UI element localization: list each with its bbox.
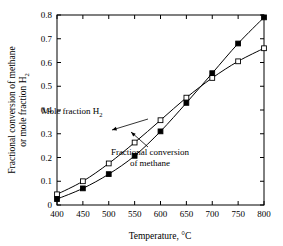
- marker-filled-square: [184, 100, 189, 105]
- annotation-mole-fraction-label-line1: Mole fraction H2: [41, 106, 102, 118]
- y-tick-label: 0.1: [41, 176, 52, 186]
- x-tick-label: 600: [154, 209, 168, 219]
- y-axis-title-subscript: 2: [23, 73, 30, 76]
- marker-filled-square: [106, 172, 111, 177]
- marker-open-square: [184, 95, 189, 100]
- marker-filled-square: [80, 186, 85, 191]
- x-tick-label: 800: [257, 209, 271, 219]
- marker-filled-square: [236, 41, 241, 46]
- y-tick-label: 0.6: [41, 58, 53, 68]
- chart-canvas: 400450500550600650700750800 00.10.20.30.…: [0, 0, 283, 246]
- y-tick-label: 0.7: [41, 34, 53, 44]
- marker-filled-square: [158, 129, 163, 134]
- marker-open-square: [262, 46, 267, 51]
- x-tick-label: 400: [50, 209, 64, 219]
- y-tick-label: 0.2: [41, 153, 52, 163]
- marker-filled-square: [262, 15, 267, 20]
- x-axis-tick-labels: 400450500550600650700750800: [50, 209, 271, 219]
- y-tick-label: 0.5: [41, 81, 53, 91]
- x-tick-label: 750: [231, 209, 245, 219]
- marker-open-square: [236, 59, 241, 64]
- marker-open-square: [132, 140, 137, 145]
- x-tick-label: 500: [102, 209, 116, 219]
- marker-open-square: [158, 118, 163, 123]
- annotation-fractional-conversion-label-line2: of methane: [130, 158, 170, 168]
- x-tick-label: 650: [180, 209, 194, 219]
- marker-open-square: [80, 179, 85, 184]
- y-tick-label: 0.3: [41, 129, 53, 139]
- marker-open-square: [210, 76, 215, 81]
- annotation-fractional-conversion-label-line1: Fractional conversion: [111, 147, 190, 157]
- y-axis-title-line1: Fractional conversion of methane: [7, 46, 17, 173]
- marker-open-square: [106, 161, 111, 166]
- marker-filled-square: [210, 71, 215, 76]
- y-tick-label: 0.8: [41, 10, 53, 20]
- y-axis-title-line2: or mole fraction H2: [18, 73, 30, 147]
- x-tick-label: 700: [206, 209, 220, 219]
- y-tick-label: 0: [48, 200, 53, 210]
- x-tick-label: 450: [76, 209, 90, 219]
- marker-open-square: [55, 192, 60, 197]
- x-axis-title: Temperature, °C: [129, 231, 192, 241]
- y-axis-title-line2-text: or mole fraction H: [18, 76, 28, 147]
- marker-filled-square: [55, 197, 60, 202]
- x-tick-label: 550: [128, 209, 142, 219]
- chart-figure: 400450500550600650700750800 00.10.20.30.…: [0, 0, 283, 246]
